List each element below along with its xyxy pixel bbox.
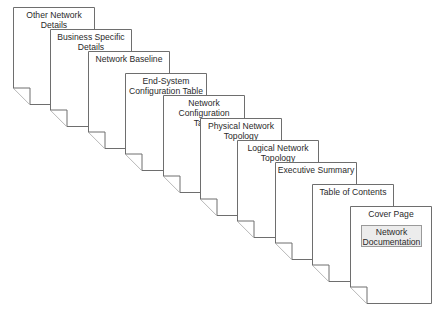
page-title-line: Logical Network: [239, 143, 317, 153]
page-title: Business SpecificDetails: [52, 32, 130, 52]
page-title-line: Network Configuration: [165, 98, 243, 118]
cover-title-line: Documentation: [362, 237, 421, 247]
cover-title-box: NetworkDocumentation: [361, 225, 422, 247]
page-title-line: Network Baseline: [90, 54, 168, 64]
page-title-line: Table of Contents: [314, 187, 392, 197]
page-title: End-SystemConfiguration Table: [127, 76, 205, 96]
page-cover-page: Cover PageNetworkDocumentation: [350, 206, 432, 304]
page-title-line: End-System: [127, 76, 205, 86]
page-title: Other NetworkDetails: [15, 10, 93, 30]
page-title-line: Physical Network: [202, 121, 280, 131]
page-title: Logical NetworkTopology: [239, 143, 317, 163]
page-title-line: Cover Page: [352, 209, 430, 219]
page-title: Table of Contents: [314, 187, 392, 197]
page-outline-icon: [350, 206, 432, 304]
document-stack-diagram: Other NetworkDetailsBusiness SpecificDet…: [0, 0, 435, 312]
page-title: Physical NetworkTopology: [202, 121, 280, 141]
page-title: Executive Summary: [277, 165, 355, 175]
page-title-line: Executive Summary: [277, 165, 355, 175]
page-title: Cover Page: [352, 209, 430, 219]
page-title-line: Business Specific: [52, 32, 130, 42]
page-title: Network Baseline: [90, 54, 168, 64]
page-title-line: Other Network: [15, 10, 93, 20]
cover-title-line: Network: [362, 227, 421, 237]
